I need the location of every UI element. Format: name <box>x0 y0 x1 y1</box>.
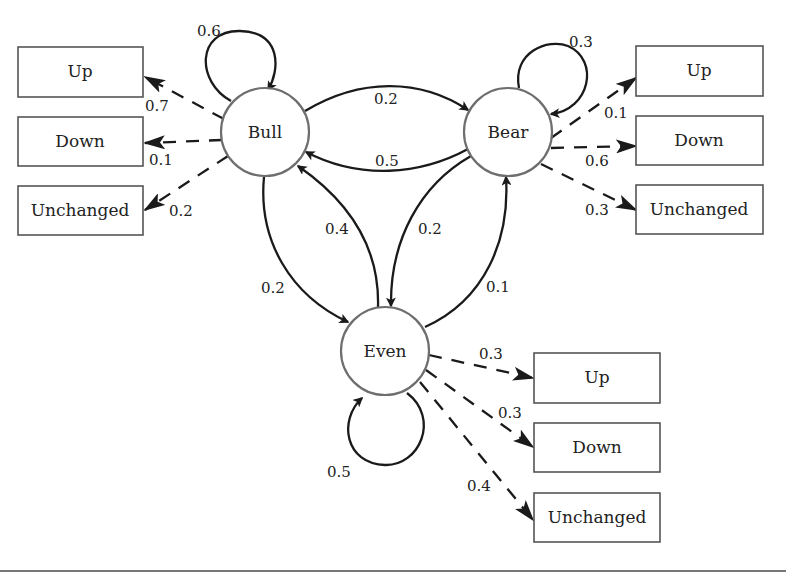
outcome-label-even-up: Up <box>584 367 609 387</box>
outcome-label-bear-up: Up <box>686 60 711 80</box>
label-bear-bear: 0.3 <box>569 33 593 51</box>
label-even-down: 0.3 <box>498 404 522 422</box>
even-outcomes: Up Down Unchanged <box>534 353 660 542</box>
state-even-label: Even <box>363 341 406 361</box>
hmm-diagram: Bull Bear Even Up Down Unchanged Up Down… <box>0 0 786 578</box>
transition-even-even <box>348 393 424 465</box>
label-even-bull: 0.4 <box>325 220 349 238</box>
state-bear-label: Bear <box>488 122 530 142</box>
label-even-unchanged: 0.4 <box>467 477 491 495</box>
emission-bull-down <box>145 140 222 143</box>
emission-bear-down <box>551 146 636 148</box>
state-bear: Bear <box>464 88 552 176</box>
outcome-label-bull-up: Up <box>67 61 92 81</box>
label-bull-up: 0.7 <box>145 97 169 115</box>
label-bear-unchanged: 0.3 <box>585 201 609 219</box>
state-bull-label: Bull <box>248 122 282 142</box>
transition-even-bear <box>425 177 506 327</box>
outcome-label-bear-unchanged: Unchanged <box>650 199 749 219</box>
label-bull-bear: 0.2 <box>374 90 398 108</box>
outcome-label-bull-down: Down <box>55 131 104 151</box>
bear-outcomes: Up Down Unchanged <box>636 46 763 234</box>
emission-even-unchanged <box>420 382 533 520</box>
outcome-label-bear-down: Down <box>674 130 723 150</box>
label-bear-down: 0.6 <box>585 152 609 170</box>
label-bull-bull: 0.6 <box>197 22 221 40</box>
outcome-label-even-unchanged: Unchanged <box>548 507 647 527</box>
label-bear-up: 0.1 <box>604 104 628 122</box>
label-even-bear: 0.1 <box>486 278 510 296</box>
label-bear-even: 0.2 <box>418 220 442 238</box>
outcome-label-bull-unchanged: Unchanged <box>31 200 130 220</box>
state-even: Even <box>341 307 429 395</box>
bull-outcomes: Up Down Unchanged <box>18 47 143 235</box>
outcome-label-even-down: Down <box>572 437 621 457</box>
label-bull-unchanged: 0.2 <box>169 202 193 220</box>
label-bull-down: 0.1 <box>149 151 173 169</box>
state-bull: Bull <box>221 88 309 176</box>
label-bull-even: 0.2 <box>261 279 285 297</box>
label-bear-bull: 0.5 <box>375 152 399 170</box>
label-even-up: 0.3 <box>479 345 503 363</box>
label-even-even: 0.5 <box>327 463 351 481</box>
